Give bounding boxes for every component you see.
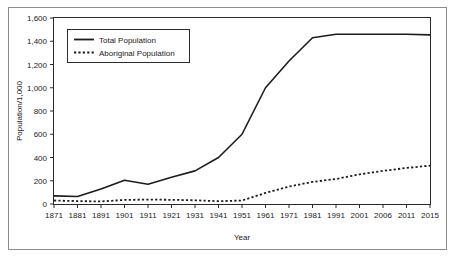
y-axis-tick-label: 0 (43, 200, 48, 209)
x-axis-tick-label: 2001 (351, 211, 369, 220)
y-axis-tick-label: 1,200 (27, 61, 48, 70)
y-axis-tick-label: 1,000 (27, 84, 48, 93)
x-axis-tick-label: 1921 (163, 211, 181, 220)
population-chart-figure: 02004006008001,0001,2001,4001,600 187118… (0, 0, 455, 257)
legend-label-total-population: Total Population (99, 36, 156, 45)
y-axis-tick-label: 800 (34, 107, 48, 116)
y-axis-tick-label: 1,400 (27, 37, 48, 46)
y-axis-tick-label: 600 (34, 130, 48, 139)
x-axis-tick-label: 2015 (421, 211, 439, 220)
x-axis-tick-label: 1981 (304, 211, 322, 220)
x-axis-tick-label: 1901 (116, 211, 134, 220)
x-axis-tick-label: 1931 (186, 211, 204, 220)
x-axis-tick-label: 1871 (45, 211, 63, 220)
x-axis-tick-label: 2011 (398, 211, 416, 220)
x-axis-tick-label: 1941 (210, 211, 228, 220)
x-axis: 1871188118911901191119211931194119511961… (45, 204, 439, 220)
y-axis: 02004006008001,0001,2001,4001,600 (27, 14, 54, 209)
chart-legend: Total Population Aboriginal Population (68, 30, 190, 63)
legend-box (68, 30, 190, 63)
x-axis-tick-label: 1961 (257, 211, 275, 220)
x-axis-tick-label: 1991 (327, 211, 345, 220)
legend-label-aboriginal-population: Aboriginal Population (99, 49, 175, 58)
x-axis-tick-label: 2006 (374, 211, 392, 220)
y-axis-title: Population/1,000 (15, 80, 24, 141)
x-axis-tick-label: 1891 (92, 211, 110, 220)
x-axis-tick-label: 1881 (69, 211, 87, 220)
y-axis-tick-label: 1,600 (27, 14, 48, 23)
line-chart: 02004006008001,0001,2001,4001,600 187118… (0, 0, 455, 257)
x-axis-tick-label: 1971 (280, 211, 298, 220)
x-axis-tick-label: 1951 (233, 211, 251, 220)
y-axis-tick-label: 400 (34, 154, 48, 163)
y-axis-tick-label: 200 (34, 177, 48, 186)
x-axis-title: Year (234, 233, 251, 242)
x-axis-tick-label: 1911 (139, 211, 157, 220)
